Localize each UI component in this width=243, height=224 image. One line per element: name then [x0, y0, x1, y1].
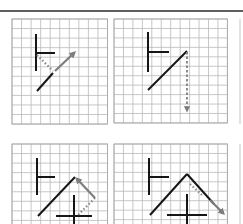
dotted-guide-line: [77, 198, 95, 216]
graph-paper-grid: [114, 144, 227, 224]
graph-paper-grid: [114, 19, 227, 123]
ink-segment: [150, 174, 187, 215]
panel-3: [12, 144, 108, 224]
panel-1: [12, 19, 108, 124]
graph-paper-grid: [12, 19, 108, 124]
panels-group: [12, 19, 227, 224]
panel-4: [114, 144, 227, 224]
diagram-canvas: [0, 0, 243, 224]
movement-arrow-icon: [210, 200, 223, 213]
panel-2: [114, 19, 227, 123]
graph-paper-grid: [12, 144, 108, 224]
movement-arrow-icon: [55, 53, 74, 71]
ink-segment: [187, 174, 214, 204]
